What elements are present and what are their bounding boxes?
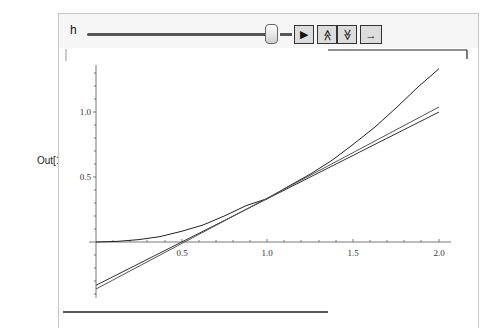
y-tick-1-0: 1.0 <box>80 107 92 117</box>
x-tick-0-5: 0.5 <box>176 248 188 258</box>
chevrons-up-icon: ≫ <box>321 29 334 41</box>
slower-button[interactable]: ≫ <box>337 25 357 44</box>
y-axis <box>93 65 96 298</box>
x-tick-2-0: 2.0 <box>433 248 445 258</box>
plot-svg: 1.0 0.5 0.5 1.0 1.5 2.0 <box>59 48 480 329</box>
variable-label: h <box>70 23 77 37</box>
plot-area: 1.0 0.5 0.5 1.0 1.5 2.0 <box>59 48 478 329</box>
series-curve <box>96 69 439 242</box>
step-forward-button[interactable]: → <box>360 25 382 44</box>
slider-thumb[interactable] <box>265 24 278 44</box>
slider-track-end <box>280 33 292 36</box>
series-tangent <box>96 112 439 285</box>
play-icon: ▶ <box>300 28 308 41</box>
manipulate-panel: h ▶ ≫ ≫ → <box>58 13 479 328</box>
slider-track[interactable] <box>87 33 270 36</box>
y-tick-0-5: 0.5 <box>80 172 92 182</box>
x-tick-1-0: 1.0 <box>261 248 273 258</box>
arrow-right-icon: → <box>366 29 377 41</box>
x-tick-1-5: 1.5 <box>347 248 359 258</box>
play-button[interactable]: ▶ <box>294 25 314 44</box>
series-secant <box>96 107 439 289</box>
control-bar: h ▶ ≫ ≫ → <box>59 14 478 48</box>
faster-button[interactable]: ≫ <box>317 25 337 44</box>
chevrons-down-icon: ≫ <box>341 29 354 41</box>
